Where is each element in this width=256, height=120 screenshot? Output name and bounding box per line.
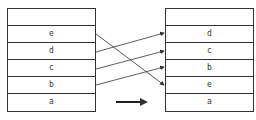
arrow-d bbox=[96, 33, 164, 52]
arrow-c bbox=[96, 51, 164, 69]
arrows-layer bbox=[0, 0, 256, 120]
arrow-b bbox=[96, 67, 164, 85]
arrow-e bbox=[96, 34, 164, 85]
